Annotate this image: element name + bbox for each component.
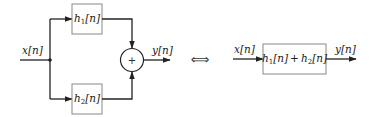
equivalent-system: x[n] h1[n]+h2[n] y[n] <box>233 43 357 74</box>
block-h2: h2[n] <box>72 84 102 114</box>
block-h2-label: h2[n] <box>74 92 101 106</box>
arrow-top-to-adder <box>102 19 132 48</box>
block-h1-plus-h2: h1[n]+h2[n] <box>262 44 328 74</box>
adder: + <box>121 49 144 72</box>
block-h1-label: h1[n] <box>74 12 101 26</box>
equivalence-icon: ⟺ <box>191 52 210 67</box>
parallel-interconnection: x[n] h1[n] h2[n] + y[n] <box>20 4 174 114</box>
input-label: x[n] <box>22 44 44 56</box>
output-label: y[n] <box>151 44 174 56</box>
parallel-systems-diagram: x[n] h1[n] h2[n] + y[n] ⟺ <box>0 0 373 117</box>
right-input-label: x[n] <box>234 43 256 55</box>
arrow-bottom-to-adder <box>102 72 132 99</box>
right-output-label: y[n] <box>334 43 357 55</box>
block-h1: h1[n] <box>72 4 102 34</box>
plus-icon: + <box>128 55 136 66</box>
